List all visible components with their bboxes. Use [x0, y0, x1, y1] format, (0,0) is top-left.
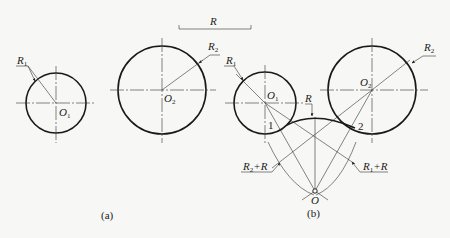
caption-b: (b)	[307, 207, 320, 220]
center-label-o1-a: O1	[59, 106, 71, 120]
panel-a: R1 O1 R2 O2 (a)	[16, 38, 220, 222]
arc-center-point	[313, 189, 317, 193]
radius-label-r1-b: R1	[225, 54, 237, 68]
tangent-point-2: 2	[358, 120, 364, 132]
circle-o1-a: R1 O1	[16, 54, 96, 143]
circle-o1-b: R1 O1	[224, 54, 305, 143]
radius-label-r2-b: R2	[423, 41, 435, 55]
center-label-o1-b: O1	[267, 89, 279, 103]
label-r2-plus-r: R2+R	[242, 160, 268, 174]
reference-radius-bar: R	[179, 15, 251, 29]
circle-o2-a: R2 O2	[110, 38, 220, 143]
label-r1-plus-r: R1+R	[362, 160, 388, 174]
arc-radius-label: R	[304, 92, 312, 104]
center-label-o2-b: O2	[360, 76, 372, 90]
circle-o2-b: R2 O2	[320, 38, 436, 143]
tangent-point-1: 1	[268, 119, 274, 131]
center-label-o2-a: O2	[164, 92, 176, 106]
reference-radius-label: R	[209, 15, 217, 27]
tangent-arc-construction-diagram: R R1 O1 R2 O2 (a)	[0, 0, 450, 238]
radius-label-r1-a: R1	[16, 54, 28, 68]
tangent-arc	[287, 118, 355, 128]
radius-label-r2-a: R2	[207, 40, 219, 54]
caption-a: (a)	[101, 209, 114, 222]
arc-center-label: O	[311, 194, 319, 206]
construction-arc-right	[316, 142, 356, 195]
panel-b: R1 O1 R2 O2 R 1 2 R2+R R1+R O (b)	[224, 38, 436, 220]
